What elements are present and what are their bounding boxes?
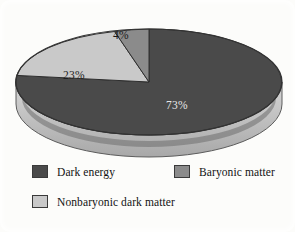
legend-item-nonbaryonic-dark-matter[interactable]: Nonbaryonic dark matter bbox=[32, 195, 175, 208]
legend-label-nonbaryonic-dark-matter: Nonbaryonic dark matter bbox=[57, 196, 175, 208]
legend-swatch-nonbaryonic-dark-matter bbox=[32, 195, 48, 208]
pie-label-nonbaryonic-dark-matter: 23% bbox=[63, 69, 85, 81]
legend-swatch-dark-energy bbox=[32, 165, 48, 178]
legend-label-dark-energy: Dark energy bbox=[57, 166, 115, 178]
legend-item-dark-energy[interactable]: Dark energy bbox=[32, 165, 115, 178]
pie-label-baryonic-matter: 4% bbox=[113, 29, 129, 41]
legend-label-baryonic-matter: Baryonic matter bbox=[199, 166, 275, 178]
legend-item-baryonic-matter[interactable]: Baryonic matter bbox=[174, 165, 275, 178]
legend-swatch-baryonic-matter bbox=[174, 165, 190, 178]
pie-svg bbox=[0, 18, 295, 158]
chart-legend: Dark energy Baryonic matter Nonbaryonic … bbox=[0, 162, 295, 224]
pie-label-dark-energy: 73% bbox=[166, 99, 188, 111]
pie-chart-figure: 4% 23% 73% Dark energy Baryonic matter N… bbox=[0, 0, 295, 232]
pie-top-face bbox=[16, 29, 282, 135]
pie-chart-graphic: 4% 23% 73% bbox=[0, 18, 295, 158]
